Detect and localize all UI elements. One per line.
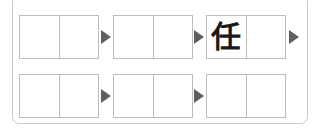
char-cell[interactable] xyxy=(246,16,286,58)
char-cell[interactable] xyxy=(114,75,153,117)
char-cell[interactable] xyxy=(153,75,193,117)
char-cell[interactable] xyxy=(59,75,99,117)
char-cell[interactable] xyxy=(20,16,59,58)
char-cell[interactable] xyxy=(59,16,99,58)
word-box-r1-2 xyxy=(113,15,193,59)
word-box-r1-1 xyxy=(19,15,99,59)
arrow-right-icon xyxy=(101,30,111,44)
char-cell[interactable] xyxy=(207,75,246,117)
char-cell[interactable] xyxy=(114,16,153,58)
arrow-right-icon xyxy=(289,30,299,44)
word-box-r2-3 xyxy=(206,74,286,118)
word-box-r1-3: 任 xyxy=(206,15,286,59)
arrow-right-icon xyxy=(101,89,111,103)
char-cell[interactable] xyxy=(20,75,59,117)
char-cell[interactable]: 任 xyxy=(207,16,246,58)
word-box-r2-1 xyxy=(19,74,99,118)
char-cell[interactable] xyxy=(153,16,193,58)
word-box-r2-2 xyxy=(113,74,193,118)
char-cell[interactable] xyxy=(246,75,286,117)
arrow-right-icon xyxy=(194,89,204,103)
arrow-right-icon xyxy=(194,30,204,44)
